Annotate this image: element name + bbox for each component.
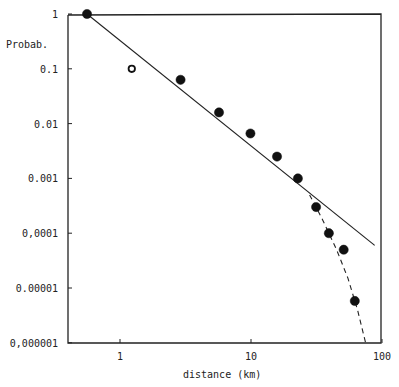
- filled-data-point: [272, 152, 281, 161]
- filled-data-point: [293, 174, 302, 183]
- y-tick-label: 0.1: [40, 64, 58, 75]
- y-tick-label: 1: [52, 9, 58, 20]
- filled-data-point: [324, 229, 333, 238]
- y-tick-label: 0.01: [34, 119, 58, 130]
- plot-frame: [68, 14, 381, 343]
- filled-data-point: [176, 75, 185, 84]
- y-tick-label: 0,0001: [22, 228, 58, 239]
- filled-data-point: [246, 129, 255, 138]
- x-tick-label: 10: [245, 351, 257, 362]
- filled-data-point: [82, 9, 91, 18]
- x-axis-label: distance (km): [183, 369, 261, 380]
- fit-line: [87, 14, 375, 245]
- filled-data-point: [311, 202, 320, 211]
- fit-lines: [87, 14, 375, 343]
- data-points: [82, 9, 359, 305]
- y-tick-label: 0,000001: [10, 338, 58, 349]
- filled-data-point: [339, 245, 348, 254]
- y-axis-ticks: 10.10.010.0010,00010.000010,000001: [10, 9, 72, 349]
- y-axis-label: Probab.: [6, 39, 48, 50]
- x-tick-label: 1: [117, 351, 123, 362]
- y-tick-label: 0.001: [28, 173, 58, 184]
- open-data-point: [129, 66, 135, 72]
- chart: 10.10.010.0010,00010.000010,000001 11010…: [0, 0, 399, 387]
- y-tick-label: 0.00001: [16, 283, 58, 294]
- filled-data-point: [214, 108, 223, 117]
- dashed-cutoff-line: [310, 195, 366, 343]
- filled-data-point: [350, 296, 359, 305]
- x-tick-label: 100: [373, 351, 391, 362]
